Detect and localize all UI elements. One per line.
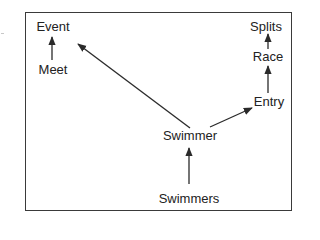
- node-entry: Entry: [254, 95, 284, 109]
- node-splits: Splits: [250, 20, 282, 34]
- edge-swimmer-to-event: [78, 44, 190, 128]
- edge-swimmer-to-entry: [210, 108, 252, 127]
- node-meet: Meet: [39, 63, 68, 77]
- node-race: Race: [253, 50, 283, 64]
- node-event: Event: [36, 20, 69, 34]
- node-swimmers: Swimmers: [159, 192, 220, 206]
- node-swimmer: Swimmer: [163, 129, 217, 143]
